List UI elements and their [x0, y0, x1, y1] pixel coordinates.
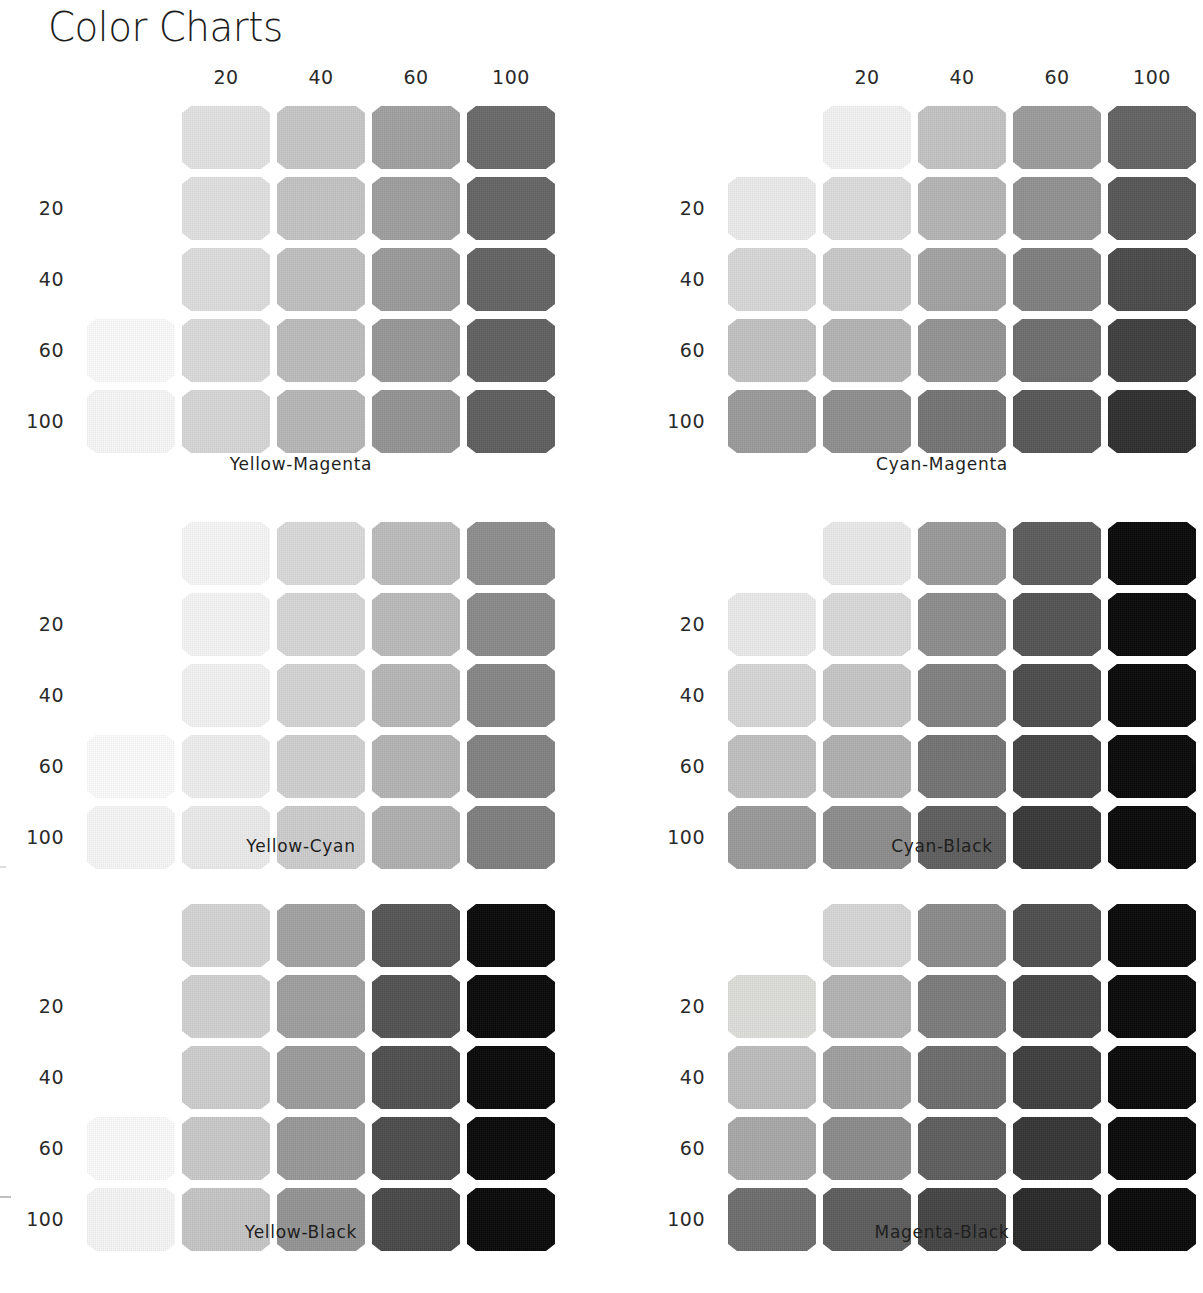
color-swatch	[823, 1117, 911, 1180]
color-swatch	[372, 975, 460, 1038]
row-label-20: 20	[0, 197, 64, 219]
color-swatch	[728, 319, 816, 382]
color-swatch	[918, 1046, 1006, 1109]
row-label-100: 100	[641, 410, 705, 432]
color-swatch	[918, 390, 1006, 453]
scan-edge-artifact	[0, 866, 6, 868]
color-swatch	[1108, 390, 1196, 453]
color-swatch	[467, 319, 555, 382]
color-swatch	[823, 664, 911, 727]
row-label-60: 60	[641, 755, 705, 777]
column-header-40: 40	[918, 66, 1006, 88]
column-header-40: 40	[277, 66, 365, 88]
color-swatch	[1108, 1117, 1196, 1180]
color-swatch	[918, 735, 1006, 798]
chart-caption: Cyan-Black	[641, 836, 1201, 856]
row-label-100: 100	[0, 410, 64, 432]
color-swatch	[467, 1046, 555, 1109]
color-swatch	[823, 735, 911, 798]
color-swatch	[918, 106, 1006, 169]
color-swatch	[728, 975, 816, 1038]
color-swatch	[372, 1046, 460, 1109]
color-swatch	[372, 248, 460, 311]
color-swatch	[728, 248, 816, 311]
color-swatch	[277, 248, 365, 311]
color-swatch	[182, 319, 270, 382]
color-swatch	[1013, 1117, 1101, 1180]
color-swatch	[467, 248, 555, 311]
color-swatch	[1013, 248, 1101, 311]
row-label-40: 40	[0, 684, 64, 706]
row-label-20: 20	[0, 613, 64, 635]
color-swatch	[372, 177, 460, 240]
row-label-40: 40	[0, 1066, 64, 1088]
color-swatch	[87, 1117, 175, 1180]
color-swatch	[728, 1046, 816, 1109]
color-swatch	[918, 319, 1006, 382]
color-swatch	[1013, 593, 1101, 656]
color-swatch	[277, 735, 365, 798]
color-swatch	[1108, 735, 1196, 798]
color-swatch	[182, 593, 270, 656]
color-swatch	[918, 593, 1006, 656]
row-label-20: 20	[0, 995, 64, 1017]
color-swatch	[277, 1046, 365, 1109]
color-swatch	[823, 106, 911, 169]
color-swatch	[823, 177, 911, 240]
color-swatch	[728, 593, 816, 656]
color-swatch	[1108, 248, 1196, 311]
color-swatch	[277, 106, 365, 169]
color-swatch	[1013, 664, 1101, 727]
color-swatch	[182, 248, 270, 311]
color-swatch	[182, 1117, 270, 1180]
color-swatch	[1013, 904, 1101, 967]
color-swatch	[467, 522, 555, 585]
color-swatch	[1013, 735, 1101, 798]
chart-caption: Yellow-Black	[0, 1222, 560, 1242]
color-swatch	[1108, 177, 1196, 240]
color-swatch	[372, 735, 460, 798]
row-label-60: 60	[0, 755, 64, 777]
color-swatch	[1013, 522, 1101, 585]
color-swatch	[467, 735, 555, 798]
column-header-60: 60	[372, 66, 460, 88]
color-swatch	[372, 904, 460, 967]
color-swatch	[372, 664, 460, 727]
color-swatch	[918, 522, 1006, 585]
color-swatch	[467, 390, 555, 453]
color-swatch	[823, 248, 911, 311]
scan-edge-artifact	[0, 1196, 11, 1198]
color-swatch	[182, 106, 270, 169]
color-swatch	[1013, 975, 1101, 1038]
row-label-60: 60	[641, 1137, 705, 1159]
color-swatch	[182, 904, 270, 967]
color-swatch	[372, 319, 460, 382]
color-swatch	[823, 975, 911, 1038]
color-swatch	[1013, 390, 1101, 453]
color-swatch	[277, 390, 365, 453]
row-label-60: 60	[0, 339, 64, 361]
color-swatch	[277, 593, 365, 656]
color-swatch	[1108, 319, 1196, 382]
row-label-40: 40	[0, 268, 64, 290]
color-swatch	[277, 1117, 365, 1180]
color-swatch	[467, 904, 555, 967]
color-swatch	[1013, 177, 1101, 240]
color-swatch	[728, 390, 816, 453]
color-swatch	[277, 904, 365, 967]
color-swatch	[918, 904, 1006, 967]
chart-caption: Yellow-Magenta	[0, 454, 560, 474]
color-swatch	[372, 390, 460, 453]
row-label-20: 20	[641, 197, 705, 219]
color-swatch	[182, 177, 270, 240]
color-swatch	[823, 390, 911, 453]
color-swatch	[918, 248, 1006, 311]
column-header-60: 60	[1013, 66, 1101, 88]
row-label-20: 20	[641, 995, 705, 1017]
color-swatch	[372, 522, 460, 585]
color-swatch	[1108, 664, 1196, 727]
chart-caption: Cyan-Magenta	[641, 454, 1201, 474]
color-swatch	[918, 664, 1006, 727]
color-swatch	[277, 522, 365, 585]
color-swatch	[277, 975, 365, 1038]
